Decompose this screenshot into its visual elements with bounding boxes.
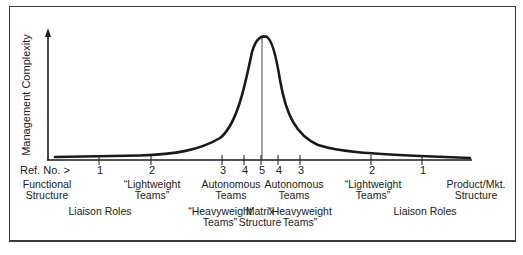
tick-number: 1 bbox=[97, 165, 103, 176]
structure-label: Liaison Roles bbox=[68, 206, 131, 217]
y-axis-label: Management Complexity bbox=[20, 34, 32, 156]
tick-number: 5 bbox=[259, 165, 265, 176]
structure-label: FunctionalStructure bbox=[23, 179, 71, 201]
tick-number: 3 bbox=[220, 165, 226, 176]
tick-number: 2 bbox=[149, 165, 155, 176]
structure-label: “HeavyweightTeams” bbox=[268, 206, 332, 228]
structure-label: AutonomousTeams bbox=[202, 179, 261, 201]
structure-label: Liaison Roles bbox=[393, 206, 456, 217]
structure-label: Product/Mkt.Structure bbox=[447, 179, 506, 201]
tick-number: 3 bbox=[298, 165, 304, 176]
complexity-curve bbox=[55, 36, 470, 158]
y-axis-arrow-icon bbox=[45, 28, 51, 37]
tick-number: 1 bbox=[420, 165, 426, 176]
tick-number: 4 bbox=[242, 165, 248, 176]
structure-label: “LightweightTeams” bbox=[345, 179, 402, 201]
structure-label: AutonomousTeams bbox=[265, 179, 324, 201]
tick-number: 2 bbox=[369, 165, 375, 176]
structure-label: “LightweightTeams” bbox=[124, 179, 181, 201]
ref-no-label: Ref. No. > bbox=[20, 164, 70, 176]
tick-number: 4 bbox=[276, 165, 282, 176]
